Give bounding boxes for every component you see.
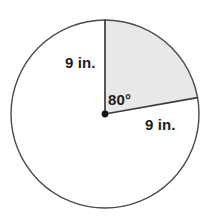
vertical-radius-label: 9 in. — [65, 54, 96, 71]
angled-radius-label: 9 in. — [145, 116, 176, 133]
center-point-dot — [102, 111, 109, 118]
circle-sector-svg: 9 in. 80° 9 in. — [0, 0, 211, 223]
geometry-figure: 9 in. 80° 9 in. — [0, 0, 211, 223]
angle-label: 80° — [108, 91, 131, 108]
